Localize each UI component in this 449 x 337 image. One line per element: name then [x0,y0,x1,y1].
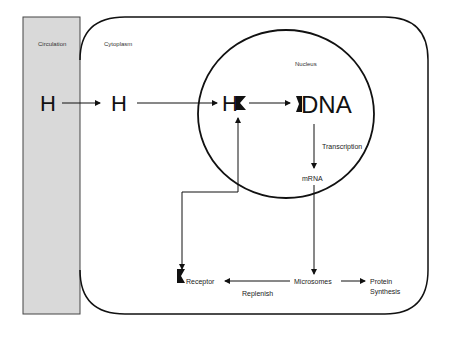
cell-membrane [80,17,428,314]
protein-label: Protein [370,278,392,285]
nucleus-label: Nucleus [295,61,317,67]
circulation-region [23,17,80,314]
hormone-cytoplasm: H [111,93,127,115]
receptor-label: Receptor [186,278,214,285]
cytoplasm-label: Cytoplasm [104,41,132,47]
mrna-label: mRNA [302,175,323,182]
circulation-label: Circulation [38,41,66,47]
synthesis-label: Synthesis [370,288,400,295]
cytoplasm-receptor-icon [177,269,185,283]
replenish-label: Replenish [242,290,273,297]
dna-label: DNA [301,93,352,117]
hormone-nucleus: H [222,93,238,115]
microsomes-label: Microsomes [294,278,332,285]
hormone-circulation: H [40,93,56,115]
arrow-receptor-recycle [182,192,238,269]
transcription-label: Transcription [322,143,362,150]
diagram-canvas [0,0,449,337]
